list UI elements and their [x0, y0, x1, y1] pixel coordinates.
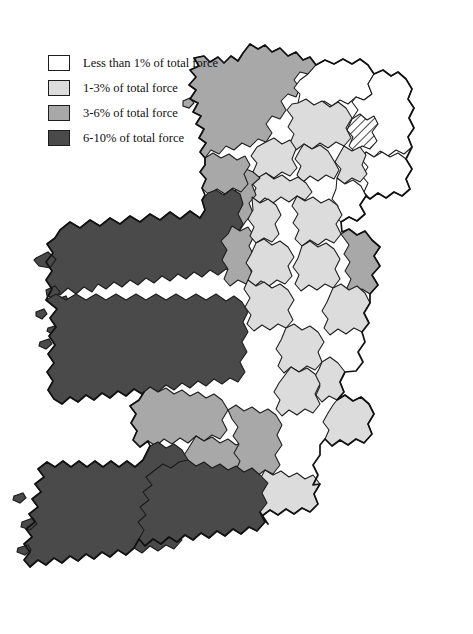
- county-wicklow[interactable]: [322, 284, 370, 335]
- county-tyrone[interactable]: [287, 99, 352, 150]
- county-westmeath[interactable]: [246, 239, 294, 287]
- county-kildare[interactable]: [293, 241, 340, 291]
- county-offaly[interactable]: [244, 280, 294, 331]
- county-dublin[interactable]: [341, 229, 380, 295]
- islet-inishbofin: [36, 309, 47, 319]
- county-kilkenny[interactable]: [274, 367, 320, 416]
- county-meath[interactable]: [292, 196, 342, 246]
- legend-swatch-6-10-percent: [48, 130, 70, 146]
- legend-swatch-3-6-percent: [48, 105, 70, 121]
- county-galway[interactable]: [46, 294, 248, 404]
- county-monaghan[interactable]: [295, 144, 339, 182]
- county-mayo[interactable]: [46, 189, 243, 295]
- map-legend: Less than 1% of total force 1-3% of tota…: [48, 50, 263, 150]
- legend-label-1-3-percent: 1-3% of total force: [83, 81, 178, 95]
- legend-item-1: 1-3% of total force: [48, 75, 263, 100]
- legend-item-3: 6-10% of total force: [48, 125, 263, 150]
- county-armagh[interactable]: [335, 146, 367, 184]
- county-longford[interactable]: [248, 197, 281, 243]
- islet-blasket: [13, 493, 26, 503]
- legend-swatch-less-than-1-percent: [48, 55, 70, 71]
- legend-swatch-1-3-percent: [48, 80, 70, 96]
- county-down[interactable]: [362, 152, 412, 199]
- legend-item-2: 3-6% of total force: [48, 100, 263, 125]
- legend-item-0: Less than 1% of total force: [48, 50, 263, 75]
- legend-label-3-6-percent: 3-6% of total force: [83, 106, 178, 120]
- islet-aran: [39, 339, 52, 349]
- county-laois[interactable]: [276, 324, 324, 373]
- map-figure: Less than 1% of total force 1-3% of tota…: [0, 0, 473, 634]
- county-sligo[interactable]: [200, 153, 250, 195]
- county-cork[interactable]: [138, 460, 268, 546]
- legend-label-6-10-percent: 6-10% of total force: [83, 131, 184, 145]
- legend-label-less-than-1-percent: Less than 1% of total force: [83, 56, 218, 70]
